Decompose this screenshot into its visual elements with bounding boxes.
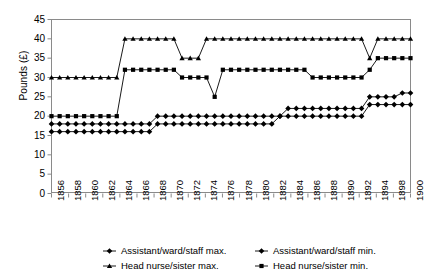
x-tick-label: 1900	[415, 179, 425, 200]
chart-figure: Pounds (£) 051015202530354045 1856185818…	[0, 0, 442, 276]
x-tick-label: 1856	[56, 179, 66, 200]
x-tick-label: 1890	[346, 179, 356, 200]
x-tick-label: 1876	[226, 179, 236, 200]
legend-entry: Head nurse/sister min.	[255, 260, 407, 271]
x-tick-label: 1888	[329, 179, 339, 200]
legend-label: Assistant/ward/staff min.	[273, 245, 376, 256]
x-tick-label: 1892	[363, 179, 373, 200]
diamond-marker-icon	[255, 246, 268, 256]
x-tick-label: 1872	[192, 179, 202, 200]
legend-entry: Assistant/ward/staff min.	[255, 245, 407, 256]
legend-label: Head nurse/sister max.	[121, 260, 219, 271]
x-tick-label: 1862	[107, 179, 117, 200]
x-tick-label: 1882	[278, 179, 288, 200]
chart-legend: Assistant/ward/staff max.Assistant/ward/…	[103, 243, 403, 273]
x-tick-label: 1880	[261, 179, 271, 200]
x-tick-label: 1866	[141, 179, 151, 200]
x-tick-label: 1874	[209, 179, 219, 200]
x-tick-label: 1878	[244, 179, 254, 200]
x-tick-label: 1864	[124, 179, 134, 200]
diamond-marker-icon	[103, 246, 116, 256]
x-tick-label: 1858	[73, 179, 83, 200]
legend-entry: Assistant/ward/staff max.	[103, 245, 255, 256]
x-axis-tick-labels: 1856185818601862186418661868187018721874…	[0, 0, 442, 276]
x-tick-label: 1884	[295, 179, 305, 200]
x-tick-label: 1860	[90, 179, 100, 200]
x-tick-label: 1886	[312, 179, 322, 200]
legend-entry: Head nurse/sister max.	[103, 260, 255, 271]
legend-label: Assistant/ward/staff max.	[121, 245, 226, 256]
x-tick-label: 1898	[397, 179, 407, 200]
legend-label: Head nurse/sister min.	[273, 260, 368, 271]
triangle-marker-icon	[103, 261, 116, 271]
x-tick-label: 1870	[175, 179, 185, 200]
x-tick-label: 1868	[158, 179, 168, 200]
square-marker-icon	[255, 261, 268, 271]
x-tick-label: 1894	[380, 179, 390, 200]
